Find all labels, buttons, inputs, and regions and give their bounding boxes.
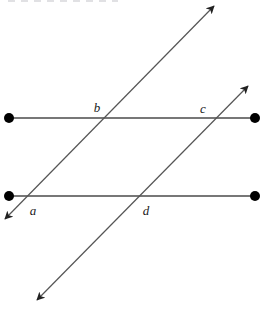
transversal-left-line: [5, 6, 214, 219]
upper-right-endpoint-dot: [250, 113, 260, 123]
lower-right-endpoint-dot: [250, 191, 260, 201]
lower-left-endpoint-dot: [4, 191, 14, 201]
geometry-diagram: a b c d: [0, 0, 264, 309]
label-a: a: [30, 203, 37, 218]
label-c: c: [200, 101, 206, 116]
label-b: b: [94, 100, 101, 115]
upper-left-endpoint-dot: [4, 113, 14, 123]
label-d: d: [143, 203, 150, 218]
